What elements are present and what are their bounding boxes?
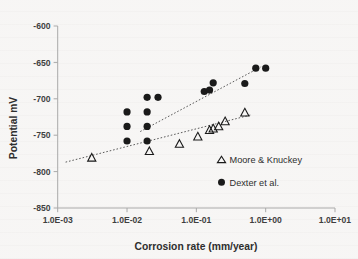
- x-tick-label: 1.0E-02: [112, 215, 142, 225]
- legend-entry-dexter: Dexter et al.: [218, 178, 279, 188]
- data-point-dexter-et-al: [241, 80, 248, 87]
- x-tick-label: 1.0E+01: [319, 215, 351, 225]
- x-axis-title: Corrosion rate (mm/year): [134, 241, 257, 252]
- filled-circle-icon: [218, 179, 225, 186]
- trendline-moore-knuckey: [66, 115, 252, 162]
- x-axis-ticks: 1.0E-031.0E-021.0E-011.0E+001.0E+01: [43, 208, 352, 225]
- y-tick-label: -700: [33, 94, 50, 104]
- data-point-dexter-et-al: [206, 86, 213, 93]
- data-point-moore-knuckey: [175, 140, 183, 148]
- data-point-moore-knuckey: [145, 147, 153, 155]
- open-triangle-icon: [217, 156, 225, 162]
- y-axis-title: Potential mV: [8, 97, 19, 159]
- data-point-moore-knuckey: [88, 153, 96, 161]
- y-tick-label: -800: [33, 167, 50, 177]
- data-point-dexter-et-al: [144, 137, 151, 144]
- y-tick-label: -850: [33, 203, 50, 213]
- data-point-moore-knuckey: [241, 108, 249, 116]
- y-tick-label: -750: [33, 130, 50, 140]
- data-point-dexter-et-al: [210, 79, 217, 86]
- x-tick-label: 1.0E-01: [181, 215, 211, 225]
- x-tick-label: 1.0E-03: [43, 215, 73, 225]
- trendlines: [66, 67, 262, 162]
- legend-label-dexter: Dexter et al.: [230, 178, 280, 188]
- y-tick-label: -600: [33, 21, 50, 31]
- data-points: [88, 65, 270, 161]
- data-point-dexter-et-al: [144, 94, 151, 101]
- y-axis-ticks: -600-650-700-750-800-850: [33, 21, 57, 213]
- data-point-dexter-et-al: [144, 108, 151, 115]
- corrosion-potential-scatter-chart: -600-650-700-750-800-850 1.0E-031.0E-021…: [0, 0, 358, 259]
- data-point-dexter-et-al: [144, 123, 151, 130]
- legend-entry-moore-knuckey: Moore & Knuckey: [217, 155, 302, 165]
- data-point-moore-knuckey: [194, 132, 202, 140]
- axis-lines: [58, 26, 335, 208]
- data-point-dexter-et-al: [123, 137, 130, 144]
- data-point-dexter-et-al: [123, 123, 130, 130]
- x-tick-label: 1.0E+00: [250, 215, 282, 225]
- chart-legend: Moore & Knuckey Dexter et al.: [217, 155, 302, 188]
- chart-svg: -600-650-700-750-800-850 1.0E-031.0E-021…: [0, 0, 358, 259]
- y-tick-label: -650: [33, 58, 50, 68]
- legend-label-moore-knuckey: Moore & Knuckey: [230, 155, 303, 165]
- data-point-dexter-et-al: [252, 65, 259, 72]
- data-point-moore-knuckey: [221, 117, 229, 125]
- data-point-dexter-et-al: [262, 65, 269, 72]
- data-point-dexter-et-al: [123, 108, 130, 115]
- data-point-dexter-et-al: [154, 94, 161, 101]
